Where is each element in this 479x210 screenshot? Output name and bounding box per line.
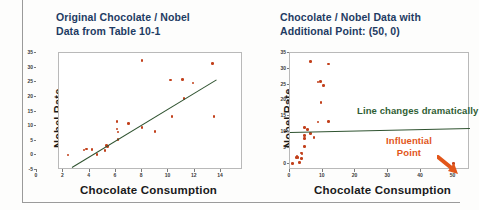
x-tick-label: 30: [380, 172, 394, 178]
data-point: [67, 154, 70, 157]
y-tick-label: 0: [272, 160, 286, 166]
y-tick-label: 0: [19, 151, 33, 157]
data-point: [319, 80, 322, 83]
x-tick-label: 12: [187, 172, 201, 178]
x-tick-label: 14: [213, 172, 227, 178]
y-tick-mark: [34, 154, 37, 155]
y-tick-mark: [287, 68, 290, 69]
regression-line: [290, 128, 470, 133]
x-tick-mark: [387, 169, 388, 172]
data-point: [291, 162, 294, 165]
y-tick-mark: [287, 84, 290, 85]
x-tick-mark: [89, 169, 90, 172]
data-point: [309, 132, 312, 135]
x-tick-mark: [167, 169, 168, 172]
data-point: [327, 63, 330, 66]
data-point: [211, 62, 214, 65]
x-tick-label: 4: [82, 172, 96, 178]
x-tick-label: 2: [55, 172, 69, 178]
x-tick-label: 0: [282, 172, 296, 178]
y-tick-label: 15: [272, 112, 286, 118]
x-tick-label: 8: [134, 172, 148, 178]
data-point: [313, 136, 316, 139]
x-tick-mark: [354, 169, 355, 172]
data-point: [303, 145, 306, 148]
y-tick-mark: [34, 125, 37, 126]
influential-point-arrow-icon: [437, 155, 463, 177]
data-point: [317, 121, 320, 124]
x-tick-mark: [220, 169, 221, 172]
data-point: [116, 128, 119, 131]
data-point: [127, 122, 130, 125]
y-tick-mark: [34, 81, 37, 82]
data-point: [303, 137, 306, 140]
y-tick-mark: [34, 52, 37, 53]
x-tick-label: 40: [413, 172, 427, 178]
x-tick-label: 10: [315, 172, 329, 178]
data-point: [298, 161, 301, 164]
scatter-plot-left: [58, 52, 242, 169]
data-point: [320, 101, 323, 104]
data-point: [213, 115, 216, 118]
data-point: [327, 120, 330, 123]
data-point: [297, 156, 300, 159]
x-tick-mark: [322, 169, 323, 172]
data-point: [104, 149, 107, 152]
data-point: [192, 82, 195, 85]
y-tick-mark: [287, 147, 290, 148]
y-tick-label: 25: [19, 78, 33, 84]
x-tick-mark: [141, 169, 142, 172]
y-tick-mark: [34, 96, 37, 97]
x-tick-label: 20: [347, 172, 361, 178]
data-point: [154, 130, 157, 133]
x-tick-label: 6: [108, 172, 122, 178]
y-tick-label: 20: [19, 93, 33, 99]
x-tick-mark: [36, 169, 37, 172]
y-tick-label: 5: [19, 137, 33, 143]
y-tick-label: 35: [272, 49, 286, 55]
y-tick-label: 35: [19, 49, 33, 55]
x-tick-mark: [289, 169, 290, 172]
y-tick-mark: [287, 52, 290, 53]
data-point: [300, 157, 303, 160]
data-point: [117, 131, 120, 134]
data-point: [85, 148, 88, 151]
data-point: [116, 120, 119, 123]
data-point: [141, 59, 144, 62]
x-tick-label: 0: [29, 172, 43, 178]
data-point: [301, 153, 304, 156]
data-point: [181, 78, 184, 81]
y-tick-mark: [287, 99, 290, 100]
x-tick-mark: [420, 169, 421, 172]
y-tick-mark: [34, 111, 37, 112]
data-point: [322, 84, 325, 87]
x-tick-mark: [62, 169, 63, 172]
regression-line: [72, 79, 217, 168]
y-tick-label: 25: [272, 81, 286, 87]
x-tick-label: 10: [160, 172, 174, 178]
data-point: [171, 115, 174, 118]
x-axis-label-left: Chocolate Consumption: [80, 184, 217, 196]
data-point: [141, 126, 144, 129]
data-point: [96, 153, 99, 156]
y-tick-mark: [287, 163, 290, 164]
data-point: [306, 128, 309, 131]
data-point: [169, 79, 172, 82]
x-tick-mark: [115, 169, 116, 172]
slide-canvas: Original Chocolate / Nobel Data from Tab…: [0, 0, 479, 210]
y-tick-mark: [287, 115, 290, 116]
y-tick-label: 30: [19, 64, 33, 70]
x-axis-label-right: Chocolate Consumption: [314, 184, 451, 196]
chart-title-right: Chocolate / Nobel Data with Additional P…: [280, 11, 421, 38]
y-tick-label: 10: [19, 122, 33, 128]
y-tick-label: 5: [272, 144, 286, 150]
y-tick-label: 30: [272, 65, 286, 71]
data-point: [91, 148, 94, 151]
y-tick-label: 10: [272, 128, 286, 134]
data-point: [309, 60, 312, 63]
y-tick-label: 15: [19, 108, 33, 114]
annotation-influential-point: Influential Point: [386, 135, 432, 158]
y-tick-mark: [287, 131, 290, 132]
annotation-line-changes: Line changes dramatically: [357, 105, 478, 116]
y-tick-mark: [34, 67, 37, 68]
